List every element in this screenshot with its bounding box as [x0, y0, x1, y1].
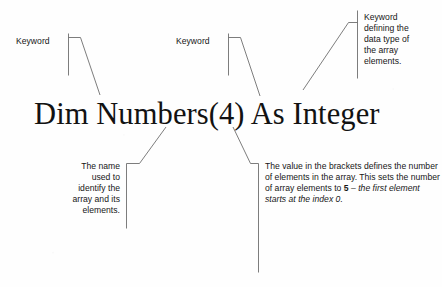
- code-statement: Dim Numbers(4) As Integer: [34, 97, 380, 131]
- annotation-element-count: The value in the brackets defines the nu…: [265, 161, 441, 205]
- annotation-keyword-dim: Keyword: [16, 36, 50, 47]
- element-count-dash: –: [349, 183, 359, 193]
- keyword-dim-leader: [69, 38, 101, 96]
- array-name-leader: [127, 127, 167, 164]
- annotation-keyword-as: Keyword: [176, 36, 210, 47]
- annotated-code-figure: Keyword Keyword Keyword defining the dat…: [0, 0, 442, 287]
- annotation-array-name: The name used to identify the array and …: [24, 161, 120, 216]
- element-count-leader: [233, 127, 259, 164]
- annotation-data-type: Keyword defining the data type of the ar…: [364, 12, 440, 67]
- keyword-as-leader: [229, 38, 261, 97]
- data-type-leader: [303, 23, 358, 91]
